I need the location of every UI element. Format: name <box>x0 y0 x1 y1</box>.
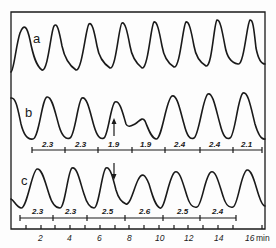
period-b-6: 2.4 <box>208 140 221 149</box>
period-b-7: 2.1 <box>240 140 253 149</box>
axis-tick-4: 4 <box>67 233 72 243</box>
period-c-5: 2.5 <box>176 207 189 216</box>
axis-tick-12: 12 <box>184 233 194 243</box>
period-b-2: 2.3 <box>74 140 87 149</box>
figure-canvas: a b 2.3 2.3 1.9 1.9 2.4 2.4 2.1 c 2.3 2.… <box>0 0 276 248</box>
period-b-3: 1.9 <box>108 140 120 149</box>
axis-tick-2: 2 <box>37 233 43 243</box>
period-c-6: 2.4 <box>211 207 224 216</box>
axis-tick-6: 6 <box>97 233 102 243</box>
axis-tick-8: 8 <box>127 233 132 243</box>
trace-label-b: b <box>25 105 32 120</box>
period-b-5: 2.4 <box>173 140 186 149</box>
period-c-2: 2.3 <box>64 207 77 216</box>
axis-tick-14: 14 <box>214 233 224 243</box>
oscillation-figure: a b 2.3 2.3 1.9 1.9 2.4 2.4 2.1 c 2.3 2.… <box>0 0 276 248</box>
period-c-1: 2.3 <box>31 207 44 216</box>
trace-c <box>11 168 265 208</box>
axis-tick-16: 16 <box>245 233 255 243</box>
period-c-4: 2.6 <box>138 207 151 216</box>
trace-a <box>11 20 265 72</box>
period-c-3: 2.5 <box>101 207 114 216</box>
axis-tick-10: 10 <box>155 233 165 243</box>
arrow-up-icon <box>112 118 117 124</box>
trace-label-c: c <box>21 173 28 188</box>
period-b-1: 2.3 <box>41 140 54 149</box>
trace-b <box>11 93 265 139</box>
trace-label-a: a <box>33 31 41 46</box>
axis-unit: min <box>256 233 270 243</box>
period-b-4: 1.9 <box>140 140 152 149</box>
